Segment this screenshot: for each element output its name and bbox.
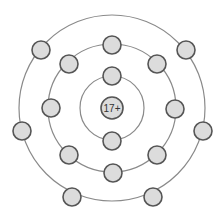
- nucleus-label: 17+: [104, 103, 121, 114]
- electron: [194, 122, 212, 140]
- electron: [32, 41, 50, 59]
- bohr-diagram: 17+: [0, 0, 221, 220]
- electron: [166, 100, 184, 118]
- electron: [42, 99, 60, 117]
- electron: [104, 164, 122, 182]
- electron: [60, 55, 78, 73]
- electron: [60, 146, 78, 164]
- electron: [103, 67, 121, 85]
- electron: [103, 36, 121, 54]
- electron: [13, 122, 31, 140]
- electron: [148, 55, 166, 73]
- electron: [144, 188, 162, 206]
- electron: [177, 41, 195, 59]
- electron: [63, 188, 81, 206]
- electron: [103, 132, 121, 150]
- electron: [148, 146, 166, 164]
